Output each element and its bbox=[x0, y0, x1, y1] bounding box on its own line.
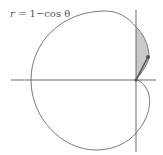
polar-diagram bbox=[0, 0, 163, 155]
marked-point bbox=[146, 55, 150, 59]
origin-point bbox=[134, 78, 137, 81]
